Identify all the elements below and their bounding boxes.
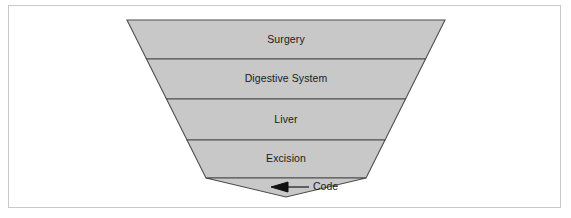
callout-label: Code [313,180,338,192]
figure-root: Surgery Digestive System Liver Excision … [0,0,571,218]
pyramid-level-3-label: Liver [206,113,366,125]
pyramid-level-1-label: Surgery [206,33,366,45]
pyramid-level-4-label: Excision [206,152,366,164]
pyramid-level-2-label: Digestive System [206,72,366,84]
